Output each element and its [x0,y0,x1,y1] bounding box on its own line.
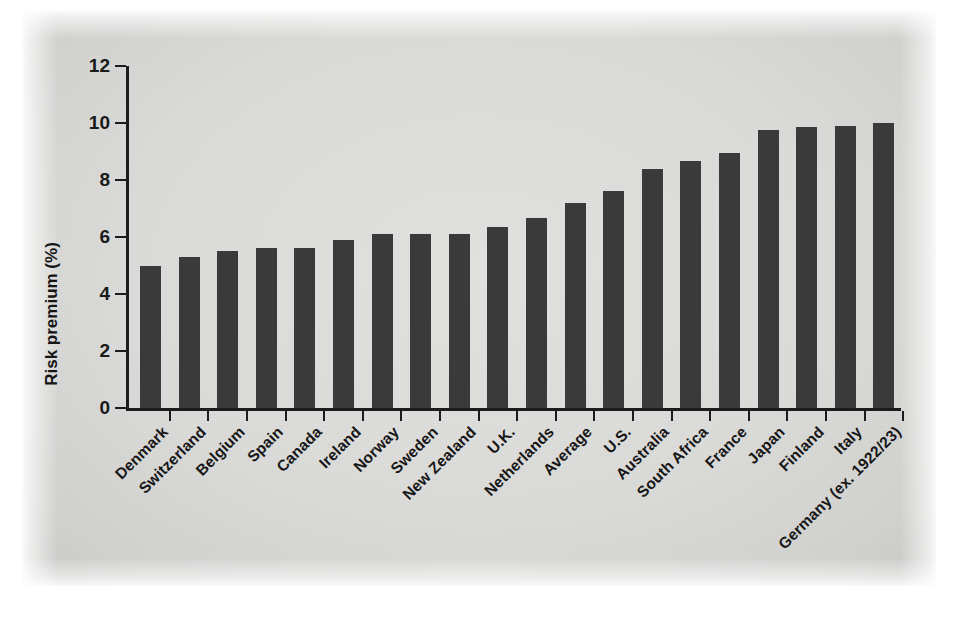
y-tick-label-12: 12 [89,55,110,77]
y-tick-label-10: 10 [89,112,110,134]
x-tick [555,411,557,421]
y-tick-label-0: 0 [99,397,110,419]
bar [719,153,740,408]
x-tick [362,411,364,421]
x-tick [748,411,750,421]
bar [603,191,624,408]
x-tick [864,411,866,421]
x-tick [169,411,171,421]
y-tick-label-8: 8 [99,169,110,191]
bar [410,234,431,408]
bar [333,240,354,408]
x-tick [786,411,788,421]
bar [179,257,200,408]
x-tick [516,411,518,421]
y-tick-12: 12 [115,65,126,67]
x-tick [323,411,325,421]
bar [526,218,547,408]
y-tick-6: 6 [115,236,126,238]
bar [873,123,894,408]
bar [835,126,856,408]
figure-root: Risk premium (%) 024681012 DenmarkSwitze… [0,0,961,627]
x-tick [632,411,634,421]
bar [217,251,238,408]
bar [487,227,508,408]
x-tick [439,411,441,421]
bar [680,161,701,408]
bar [294,248,315,408]
bar [256,248,277,408]
y-axis-title: Risk premium (%) [42,242,62,386]
x-tick [285,411,287,421]
x-tick [709,411,711,421]
x-tick [246,411,248,421]
y-tick-8: 8 [115,179,126,181]
y-axis-line [126,66,129,411]
y-tick-0: 0 [115,407,126,409]
y-tick-label-2: 2 [99,340,110,362]
x-tick [902,411,904,421]
bar [642,169,663,408]
y-tick-10: 10 [115,122,126,124]
bar [796,127,817,408]
bar [449,234,470,408]
bar [565,203,586,408]
y-tick-label-6: 6 [99,226,110,248]
x-tick [825,411,827,421]
x-tick [207,411,209,421]
chart-plot-area: 024681012 DenmarkSwitzerlandBelgiumSpain… [126,66,901,411]
x-tick [593,411,595,421]
y-tick-label-4: 4 [99,283,110,305]
y-tick-4: 4 [115,293,126,295]
x-tick [671,411,673,421]
bar [140,266,161,409]
x-tick [400,411,402,421]
y-tick-2: 2 [115,350,126,352]
bar [372,234,393,408]
bar [758,130,779,408]
x-tick [478,411,480,421]
x-axis-line [126,408,901,411]
